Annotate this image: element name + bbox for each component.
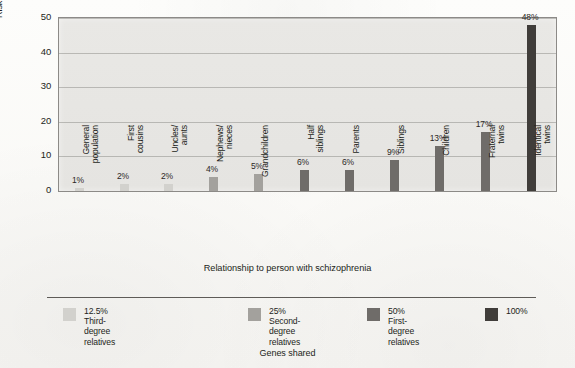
legend-swatch [248,308,261,321]
legend-divider [47,297,536,298]
y-tick-label: 50 [25,11,51,22]
y-tick-label: 20 [25,115,51,126]
gridline [59,53,556,54]
x-category-label: First cousins [127,125,146,195]
x-category-label: General population [82,125,101,195]
x-category-label: Siblings [397,125,406,195]
legend-swatch [485,308,498,321]
y-tick-label: 40 [25,46,51,57]
y-tick-label: 0 [25,184,51,195]
y-axis-title: Risk of developing schizophrenia (%) [0,0,4,18]
gridline [59,18,556,19]
legend-swatch [63,308,76,321]
y-tick-label: 10 [25,149,51,160]
x-axis-title: Relationship to person with schizophreni… [0,263,575,273]
x-category-label: Nephews/ nieces [216,125,235,195]
legend-label: 12.5% Third-degree relatives [84,306,115,347]
x-category-label: Fraternal twins [488,125,507,195]
figure-canvas: Risk of developing schizophrenia (%) 010… [0,0,575,368]
x-category-label: Uncles/ aunts [171,125,190,195]
legend-swatch [367,308,380,321]
x-category-label: Identical twins [534,125,553,195]
x-category-label: Half siblings [307,125,326,195]
legend-label: 50% First-degree relatives [388,306,419,347]
legend-title: Genes shared [0,348,575,358]
x-category-label: Grandchildren [261,125,270,195]
legend-label: 25% Second-degree relatives [269,306,300,347]
bar-value-label: 48% [513,12,547,22]
gridline [59,87,556,88]
legend-label: 100% [506,306,528,316]
x-category-label: Children [442,125,451,195]
x-category-label: Parents [352,125,361,195]
y-tick-label: 30 [25,80,51,91]
